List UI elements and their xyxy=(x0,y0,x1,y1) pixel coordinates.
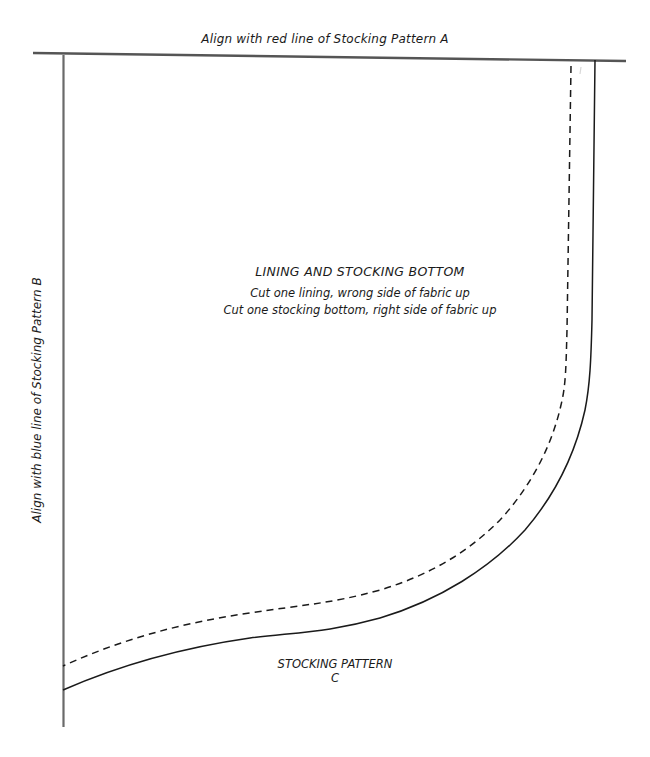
top-alignment-line xyxy=(33,53,626,61)
pattern-name: STOCKING PATTERN xyxy=(255,657,415,671)
pattern-letter: C xyxy=(255,671,415,685)
faint-mark xyxy=(580,67,581,74)
piece-title: LINING AND STOCKING BOTTOM xyxy=(150,264,570,279)
top-alignment-label: Align with red line of Stocking Pattern … xyxy=(0,32,650,46)
pattern-identifier: STOCKING PATTERN C xyxy=(255,657,415,685)
piece-info-block: LINING AND STOCKING BOTTOM Cut one linin… xyxy=(150,264,570,319)
side-alignment-label: Align with blue line of Stocking Pattern… xyxy=(30,277,44,522)
pattern-drawing xyxy=(0,0,650,757)
instruction-stocking-bottom: Cut one stocking bottom, right side of f… xyxy=(150,302,570,319)
cutting-line xyxy=(63,60,595,690)
instruction-lining: Cut one lining, wrong side of fabric up xyxy=(150,285,570,302)
seam-allowance-line xyxy=(63,66,571,666)
